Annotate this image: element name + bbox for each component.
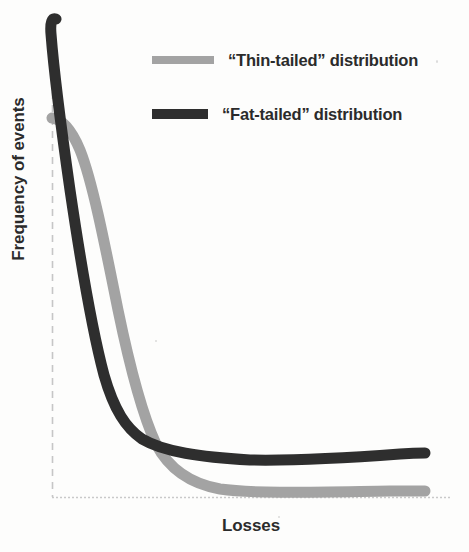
legend-item-fat-tailed: “Fat-tailed” distribution	[152, 101, 402, 127]
chart-plot-area	[0, 0, 469, 552]
scan-speck	[155, 340, 157, 342]
y-axis-title: Frequency of events	[9, 79, 31, 279]
scan-speck	[278, 516, 280, 518]
legend-label-thin-tailed: “Thin-tailed” distribution	[228, 51, 418, 70]
legend-swatch-thin-tailed-icon	[152, 56, 214, 64]
legend-item-thin-tailed: “Thin-tailed” distribution	[152, 47, 418, 73]
scan-speck	[436, 60, 438, 63]
legend-swatch-fat-tailed-icon	[152, 109, 208, 119]
chart-figure: “Thin-tailed” distribution “Fat-tailed” …	[0, 0, 469, 552]
x-axis-title: Losses	[52, 516, 450, 536]
series-line-thin-tailed	[52, 118, 425, 492]
legend-label-fat-tailed: “Fat-tailed” distribution	[222, 105, 402, 124]
